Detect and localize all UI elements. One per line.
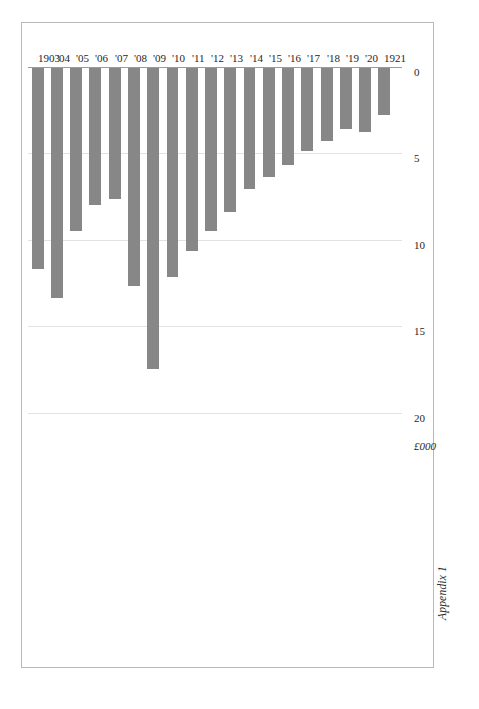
- category-tick-label: '05: [76, 52, 89, 64]
- bar-row: [89, 23, 101, 668]
- bar: [378, 68, 390, 115]
- bar: [301, 68, 313, 151]
- bar: [89, 68, 101, 205]
- bar: [224, 68, 236, 212]
- category-tick-label: '11: [192, 52, 205, 64]
- category-tick-label: 1921: [384, 52, 406, 64]
- bar-row: [51, 23, 63, 668]
- bar-row: [167, 23, 179, 668]
- bar-row: [32, 23, 44, 668]
- bar: [282, 68, 294, 165]
- bar: [205, 68, 217, 231]
- bar: [244, 68, 256, 189]
- bar-row: [263, 23, 275, 668]
- category-tick-label: '15: [269, 52, 282, 64]
- bar-chart-plot: 1903'04'05'06'07'08'09'10'11'12'13'14'15…: [22, 23, 434, 668]
- bar-row: [340, 23, 352, 668]
- category-tick-label: '17: [307, 52, 320, 64]
- bar: [263, 68, 275, 177]
- category-tick-label: '09: [153, 52, 166, 64]
- bar: [109, 68, 121, 199]
- bar: [359, 68, 371, 132]
- category-tick-label: '10: [172, 52, 185, 64]
- category-tick-label: '07: [115, 52, 128, 64]
- bar: [186, 68, 198, 251]
- bar-row: [128, 23, 140, 668]
- bar: [321, 68, 333, 141]
- bar: [51, 68, 63, 298]
- bar: [70, 68, 82, 231]
- bar-row: [186, 23, 198, 668]
- category-tick-label: '19: [346, 52, 359, 64]
- value-tick-label: 10: [414, 239, 425, 251]
- value-tick-label: 15: [414, 326, 425, 338]
- value-tick-label: 20: [414, 412, 425, 424]
- bar-row: [301, 23, 313, 668]
- appendix-caption: Appendix 1: [436, 500, 448, 620]
- bar-row: [224, 23, 236, 668]
- category-tick-label: '04: [57, 52, 70, 64]
- bar: [128, 68, 140, 286]
- bars-group: [22, 23, 434, 668]
- bar: [167, 68, 179, 277]
- bar-row: [205, 23, 217, 668]
- bar-row: [359, 23, 371, 668]
- chart-stage: 1903'04'05'06'07'08'09'10'11'12'13'14'15…: [22, 23, 434, 668]
- bar-row: [109, 23, 121, 668]
- bar: [147, 68, 159, 369]
- category-tick-label: '16: [288, 52, 301, 64]
- bar-row: [70, 23, 82, 668]
- bar-row: [282, 23, 294, 668]
- bar-row: [147, 23, 159, 668]
- category-tick-label: '06: [95, 52, 108, 64]
- value-tick-label: 5: [414, 153, 420, 165]
- bar: [32, 68, 44, 269]
- axis-unit-label: £000: [414, 440, 436, 452]
- bar-row: [321, 23, 333, 668]
- category-tick-label: '14: [250, 52, 263, 64]
- category-tick-label: '12: [211, 52, 224, 64]
- bar-row: [244, 23, 256, 668]
- category-tick-label: '20: [365, 52, 378, 64]
- bar: [340, 68, 352, 129]
- category-tick-label: '08: [134, 52, 147, 64]
- value-tick-label: 0: [414, 66, 420, 78]
- category-tick-label: '18: [327, 52, 340, 64]
- bar-row: [378, 23, 390, 668]
- category-tick-label: '13: [230, 52, 243, 64]
